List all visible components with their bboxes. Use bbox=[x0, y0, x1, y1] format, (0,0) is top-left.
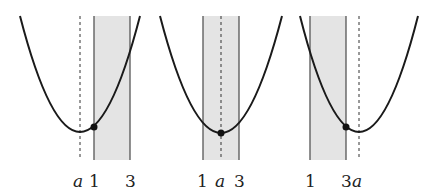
label-1: 1 bbox=[89, 171, 100, 191]
shaded-interval bbox=[94, 16, 130, 160]
diagram-canvas: a 1 3 1 a 3 1 3 a bbox=[0, 0, 436, 195]
panel-3: 1 3 a bbox=[300, 16, 418, 191]
label-3: 3 bbox=[125, 171, 136, 191]
min-point bbox=[343, 124, 350, 131]
label-1: 1 bbox=[197, 171, 208, 191]
shaded-interval bbox=[310, 16, 346, 160]
panel-2: 1 a 3 bbox=[160, 16, 282, 191]
min-point bbox=[218, 130, 225, 137]
panel-1: a 1 3 bbox=[20, 16, 140, 191]
label-a: a bbox=[352, 171, 362, 191]
label-a: a bbox=[73, 171, 83, 191]
label-1: 1 bbox=[305, 171, 316, 191]
min-point bbox=[91, 124, 98, 131]
label-3: 3 bbox=[234, 171, 245, 191]
label-3: 3 bbox=[341, 171, 352, 191]
label-a: a bbox=[215, 171, 225, 191]
